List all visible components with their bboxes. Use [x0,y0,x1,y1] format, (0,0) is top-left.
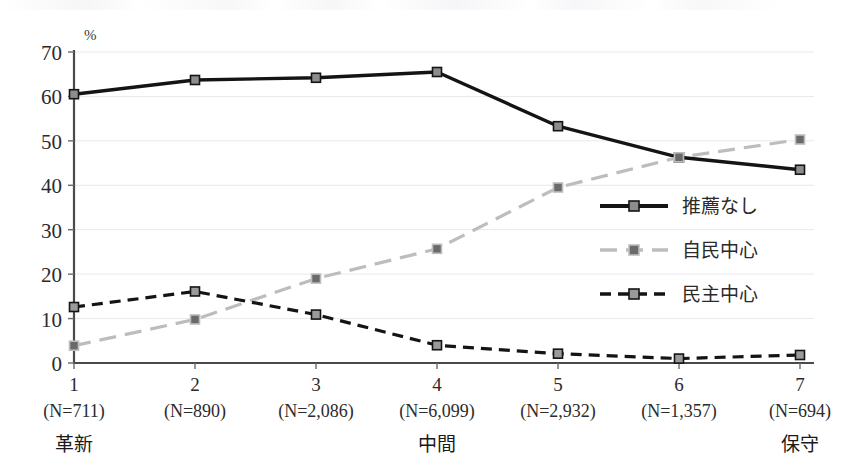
data-point-marker [433,67,442,76]
x-axis-count-label: (N=1,357) [641,401,717,422]
data-point-marker [554,349,563,358]
data-point-marker [433,244,442,253]
x-axis-category-label: 1 [69,374,79,395]
series-line-0 [74,72,800,170]
x-axis-count-label: (N=694) [769,401,831,422]
x-axis-count-label: (N=890) [164,401,226,422]
legend-item-label: 民主中心 [682,283,758,305]
data-point-marker [312,73,321,82]
legend-swatch-marker [629,201,639,211]
y-axis-unit-label: % [84,27,97,43]
data-point-marker [312,274,321,283]
x-axis-count-label: (N=2,086) [278,401,354,422]
legend-swatch-marker [629,289,639,299]
y-axis-tick-label: 10 [41,308,62,332]
legend-item-label: 自民中心 [682,239,758,261]
data-point-marker [191,75,200,84]
data-point-marker [70,90,79,99]
data-point-marker [191,287,200,296]
chart-figure: 706050403020100 % 1(N=711)2(N=890)3(N=2,… [0,0,849,457]
data-point-marker [312,310,321,319]
y-axis-tick-label: 60 [41,85,62,109]
data-point-marker [675,153,684,162]
data-point-marker [796,165,805,174]
x-axis-anchor-label: 革新 [55,433,93,455]
y-axis-tick-label: 40 [41,174,62,198]
x-axis-category-label: 3 [311,374,321,395]
y-axis-tick-label: 0 [52,352,63,376]
x-axis-category-label: 2 [190,374,200,395]
y-axis-tick-label: 30 [41,219,62,243]
data-point-marker [796,135,805,144]
data-point-marker [675,354,684,363]
x-axis-count-label: (N=711) [43,401,104,422]
line-chart-plot: 706050403020100 % 1(N=711)2(N=890)3(N=2,… [0,0,849,457]
x-axis-count-label: (N=2,932) [520,401,596,422]
legend-item-label: 推薦なし [682,195,758,217]
data-point-marker [554,183,563,192]
x-axis-category-label: 6 [674,374,684,395]
x-axis-tick-labels: 1(N=711)2(N=890)3(N=2,086)4(N=6,099)5(N=… [43,374,831,455]
x-axis-anchor-label: 中間 [418,433,456,455]
data-point-marker [70,341,79,350]
data-point-marker [70,303,79,312]
data-point-marker [796,351,805,360]
y-axis-tick-label: 50 [41,130,62,154]
y-axis-unit-label: % [84,27,97,43]
y-axis-tick-label: 70 [41,41,62,65]
data-point-marker [191,315,200,324]
chart-legend: 推薦なし自民中心民主中心 [600,195,758,305]
gridlines-group [74,52,814,319]
legend-swatch-marker [629,245,639,255]
y-axis-tick-labels: 706050403020100 [41,41,62,376]
x-axis-anchor-label: 保守 [781,433,819,455]
data-point-marker [554,122,563,131]
data-point-marker [433,341,442,350]
x-axis-category-label: 5 [553,374,563,395]
x-axis-count-label: (N=6,099) [399,401,475,422]
x-axis-category-label: 7 [795,374,805,395]
x-axis-category-label: 4 [432,374,442,395]
y-axis-tick-label: 20 [41,263,62,287]
